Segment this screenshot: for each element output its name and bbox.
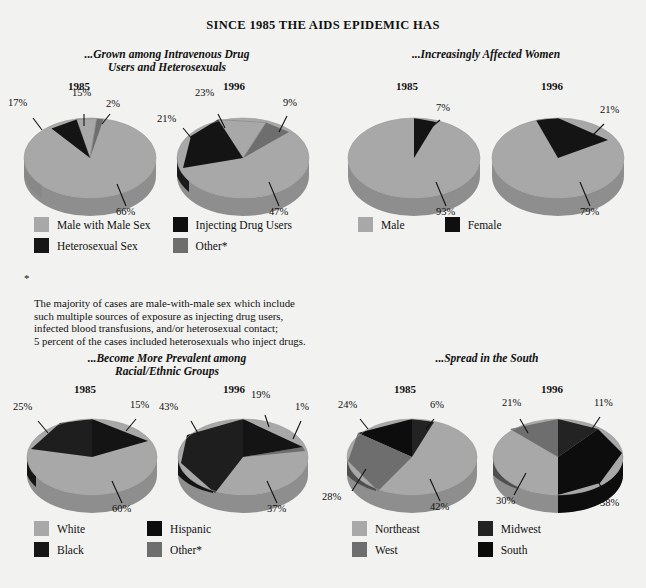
legend-swatch-icon xyxy=(478,542,493,557)
chart-year-1996: 1996 xyxy=(223,80,245,92)
pie-label-1: 1% xyxy=(295,401,309,412)
page-title: SINCE 1985 THE AIDS EPIDEMIC HAS xyxy=(0,18,646,33)
legend-swatch-icon xyxy=(478,521,493,536)
pie-label-43: 43% xyxy=(159,401,178,412)
pie-label-30: 30% xyxy=(496,495,515,506)
legend-swatch-icon xyxy=(147,542,162,557)
footnote: * The majority of cases are male-with-ma… xyxy=(24,272,324,360)
chart-year-1996: 1996 xyxy=(541,80,563,92)
legend-column-left: Male xyxy=(358,216,405,233)
pie-chart-south-1985: 24% 6% 28% 42% xyxy=(342,407,482,519)
legend-column-right: Female xyxy=(445,216,502,233)
legend-item-black[interactable]: Black xyxy=(34,541,85,558)
legend-label: Hispanic xyxy=(170,523,211,535)
legend-swatch-icon xyxy=(34,217,49,232)
pie-leader-lines xyxy=(20,106,160,222)
pie-chart-race-1985: 25% 15% 60% xyxy=(22,407,162,519)
chart-year-1996: 1996 xyxy=(223,383,245,395)
pie-label-79: 79% xyxy=(580,206,599,217)
pie-leader-lines xyxy=(22,407,162,519)
legend-label: Heterosexual Sex xyxy=(57,240,138,252)
pie-label-25: 25% xyxy=(13,401,32,412)
pie-label-2: 2% xyxy=(106,98,120,109)
legend-label: Male with Male Sex xyxy=(57,219,151,231)
pie-label-42: 42% xyxy=(430,501,449,512)
panel-title: ...Spread in the South xyxy=(336,352,638,365)
legend-swatch-icon xyxy=(173,217,188,232)
legend-item-white[interactable]: White xyxy=(34,520,85,537)
footnote-text: The majority of cases are male-with-male… xyxy=(24,297,324,347)
legend-item-other[interactable]: Other* xyxy=(147,541,211,558)
legend-swatch-icon xyxy=(34,238,49,253)
pie-label-19: 19% xyxy=(251,389,270,400)
legend-item-male[interactable]: Male xyxy=(358,216,405,233)
legend-swatch-icon xyxy=(173,238,188,253)
legend-item-heterosexual-sex[interactable]: Heterosexual Sex xyxy=(34,237,151,254)
footnote-marker: * xyxy=(24,272,29,285)
chart-year-1985: 1985 xyxy=(396,80,418,92)
legend-iv-drug: Male with Male Sex Heterosexual Sex Inje… xyxy=(34,216,292,254)
pie-label-38: 38% xyxy=(600,497,619,508)
legend-item-female[interactable]: Female xyxy=(445,216,502,233)
chart-year-1996: 1996 xyxy=(541,383,563,395)
pie-label-21: 21% xyxy=(157,113,176,124)
legend-swatch-icon xyxy=(352,521,367,536)
pie-label-17: 17% xyxy=(8,97,27,108)
pie-label-15: 15% xyxy=(130,399,149,410)
pie-chart-women-1996: 21% 79% xyxy=(488,106,628,222)
pie-leader-lines xyxy=(173,407,313,519)
legend-item-other[interactable]: Other* xyxy=(173,237,292,254)
legend-column-right: Hispanic Other* xyxy=(147,520,211,558)
panel-women: ...Increasingly Affected Women 1985 1996 xyxy=(336,48,636,222)
chart-year-1985: 1985 xyxy=(394,383,416,395)
legend-item-northeast[interactable]: Northeast xyxy=(352,520,420,537)
legend-label: Northeast xyxy=(375,523,420,535)
pie-chart-women-1985: 7% 93% xyxy=(344,106,484,222)
legend-swatch-icon xyxy=(34,542,49,557)
pie-label-7: 7% xyxy=(436,102,450,113)
panel-iv-drug-heterosexuals: ...Grown among Intravenous Drug Users an… xyxy=(8,48,326,222)
legend-item-hispanic[interactable]: Hispanic xyxy=(147,520,211,537)
legend-item-midwest[interactable]: Midwest xyxy=(478,520,541,537)
legend-column-right: Midwest South xyxy=(478,520,541,558)
pie-chart-south-1996: 21% 11% 30% 38% xyxy=(488,407,628,519)
pie-chart-race-1996: 43% 19% 1% 37% xyxy=(173,407,313,519)
pie-leader-lines xyxy=(344,106,484,222)
pie-label-23: 23% xyxy=(195,87,214,98)
legend-item-injecting-drug-users[interactable]: Injecting Drug Users xyxy=(173,216,292,233)
legend-swatch-icon xyxy=(445,217,460,232)
legend-label: Male xyxy=(381,219,405,231)
legend-item-south[interactable]: South xyxy=(478,541,541,558)
legend-label: White xyxy=(57,523,85,535)
legend-women: Male Female xyxy=(358,216,502,233)
pie-label-9: 9% xyxy=(283,97,297,108)
legend-south: Northeast West Midwest South xyxy=(352,520,541,558)
legend-swatch-icon xyxy=(358,217,373,232)
legend-column-right: Injecting Drug Users Other* xyxy=(173,216,292,254)
pie-label-37: 37% xyxy=(267,503,286,514)
legend-label: Other* xyxy=(196,240,228,252)
legend-item-male-with-male-sex[interactable]: Male with Male Sex xyxy=(34,216,151,233)
pie-label-21: 21% xyxy=(600,104,619,115)
pie-label-15: 15% xyxy=(72,87,91,98)
pie-label-11: 11% xyxy=(594,397,613,408)
legend-label: Injecting Drug Users xyxy=(196,219,292,231)
legend-label: South xyxy=(501,544,528,556)
pie-chart-iv-1985: 17% 15% 2% 66% xyxy=(20,106,160,222)
legend-label: Midwest xyxy=(501,523,541,535)
panel-title: ...Become More Prevalent among Racial/Et… xyxy=(8,352,326,378)
pie-label-6: 6% xyxy=(430,399,444,410)
chart-year-1985: 1985 xyxy=(74,383,96,395)
legend-swatch-icon xyxy=(147,521,162,536)
legend-label: Black xyxy=(57,544,84,556)
panel-south: ...Spread in the South 1985 1996 xyxy=(336,352,638,519)
legend-column-left: Northeast West xyxy=(352,520,420,558)
pie-leader-lines xyxy=(173,106,313,222)
legend-item-west[interactable]: West xyxy=(352,541,420,558)
panel-title: ...Grown among Intravenous Drug Users an… xyxy=(8,48,326,74)
legend-swatch-icon xyxy=(352,542,367,557)
pie-chart-iv-1996: 23% 9% 21% 47% xyxy=(173,106,313,222)
legend-racial-ethnic: White Black Hispanic Other* xyxy=(34,520,211,558)
legend-column-left: Male with Male Sex Heterosexual Sex xyxy=(34,216,151,254)
pie-label-60: 60% xyxy=(112,503,131,514)
